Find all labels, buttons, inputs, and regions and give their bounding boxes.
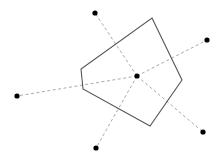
sites xyxy=(14,10,209,150)
voronoi-cell-polygon xyxy=(81,18,182,126)
dashed-links xyxy=(17,13,207,148)
neighbor-site-dot-2 xyxy=(200,129,205,134)
neighbor-site-dot-4 xyxy=(14,93,19,98)
neighbor-site-dot-0 xyxy=(92,10,97,15)
voronoi-diagram xyxy=(0,0,221,155)
dashed-link-1 xyxy=(137,40,207,76)
dashed-link-4 xyxy=(17,76,137,96)
neighbor-site-dot-1 xyxy=(204,37,209,42)
neighbor-site-dot-3 xyxy=(93,145,98,150)
center-site-dot xyxy=(134,73,139,78)
dashed-link-2 xyxy=(137,76,203,132)
dashed-link-3 xyxy=(96,76,137,148)
